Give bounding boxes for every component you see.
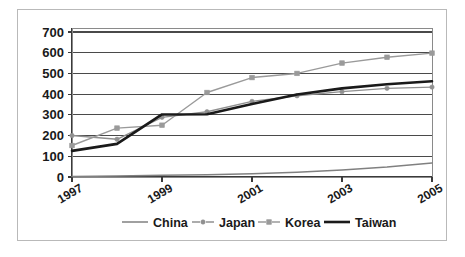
y-axis-tick-labels: 0100200300400500600700 bbox=[42, 25, 64, 185]
data-point-marker-square bbox=[160, 123, 165, 128]
data-point-marker-diamond bbox=[201, 220, 205, 224]
series-taiwan bbox=[72, 81, 432, 151]
legend-item-japan[interactable]: Japan bbox=[192, 216, 255, 230]
legend-label: China bbox=[153, 216, 189, 230]
x-tick-label: 1999 bbox=[145, 181, 175, 207]
series-line-japan bbox=[72, 87, 432, 139]
chart-legend: ChinaJapanKoreaTaiwan bbox=[122, 216, 396, 230]
legend-item-korea[interactable]: Korea bbox=[258, 216, 321, 230]
x-tick-label: 2003 bbox=[325, 181, 355, 207]
y-tick-label: 0 bbox=[57, 170, 64, 185]
y-tick-label: 600 bbox=[42, 45, 64, 60]
y-tick-label: 400 bbox=[42, 87, 64, 102]
series-china bbox=[72, 163, 432, 176]
chart-figure: 0100200300400500600700 19971999200120032… bbox=[17, 9, 447, 241]
data-point-marker-square bbox=[430, 51, 435, 56]
series-line-china bbox=[72, 163, 432, 176]
x-tick-label: 2001 bbox=[235, 181, 265, 207]
y-tick-label: 100 bbox=[42, 149, 64, 164]
data-point-marker-square bbox=[115, 126, 120, 131]
legend-label: Korea bbox=[285, 216, 321, 230]
data-point-marker-square bbox=[205, 90, 210, 95]
data-point-marker-square bbox=[385, 55, 390, 60]
data-point-marker-diamond bbox=[70, 133, 74, 137]
legend-item-china[interactable]: China bbox=[122, 216, 189, 230]
data-point-marker-square bbox=[295, 71, 300, 76]
legend-label: Japan bbox=[219, 216, 255, 230]
line-chart: 0100200300400500600700 19971999200120032… bbox=[18, 10, 446, 240]
data-point-marker-square bbox=[340, 61, 345, 66]
data-point-marker-diamond bbox=[340, 89, 344, 93]
y-tick-label: 200 bbox=[42, 128, 64, 143]
data-series-group bbox=[70, 51, 435, 177]
data-point-marker-diamond bbox=[115, 137, 119, 141]
data-point-marker-diamond bbox=[385, 86, 389, 90]
x-tick-label: 2005 bbox=[415, 181, 445, 207]
y-tick-label: 500 bbox=[42, 66, 64, 81]
series-line-taiwan bbox=[72, 81, 432, 151]
legend-item-taiwan[interactable]: Taiwan bbox=[324, 216, 396, 230]
data-point-marker-square bbox=[70, 143, 75, 148]
x-axis-tick-marks bbox=[72, 177, 432, 182]
y-tick-label: 700 bbox=[42, 25, 64, 40]
y-tick-label: 300 bbox=[42, 107, 64, 122]
data-point-marker-square bbox=[250, 75, 255, 80]
series-japan bbox=[70, 85, 434, 142]
data-point-marker-square bbox=[267, 220, 272, 225]
data-point-marker-diamond bbox=[430, 85, 434, 89]
legend-label: Taiwan bbox=[355, 216, 396, 230]
x-axis-tick-labels: 19971999200120032005 bbox=[55, 181, 445, 207]
